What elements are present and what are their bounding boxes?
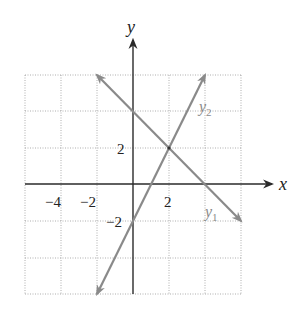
intersection-point	[167, 146, 170, 149]
x-axis-label: x	[278, 174, 287, 194]
y-axis-label: y	[125, 17, 135, 37]
y-tick-2: 2	[117, 141, 125, 157]
label-y2: y2	[197, 98, 212, 118]
y-tick-neg2: −2	[106, 214, 122, 230]
x-tick-neg4: −4	[45, 194, 61, 210]
x-tick-neg2: −2	[80, 194, 96, 210]
x-tick-2: 2	[164, 194, 172, 210]
chart: x y −4 −2 2 2 −2 y1 y2	[0, 0, 306, 316]
